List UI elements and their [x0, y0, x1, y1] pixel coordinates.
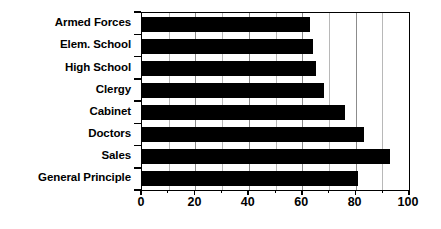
bar [142, 149, 390, 164]
category-label: Armed Forces [0, 12, 136, 34]
plot-area [141, 12, 410, 191]
category-label: Elem. School [0, 34, 136, 56]
category-tick [134, 34, 141, 36]
bar [142, 171, 358, 186]
bar [142, 61, 316, 76]
bar-row [142, 79, 409, 101]
bar [142, 83, 324, 98]
category-label: Cabinet [0, 101, 136, 123]
value-tick-minor [167, 190, 168, 193]
value-axis-label: 60 [294, 196, 308, 209]
bar-row [142, 168, 409, 190]
bar [142, 39, 313, 54]
bar-row [142, 102, 409, 124]
category-axis: Armed Forces Elem. School High School Cl… [0, 12, 136, 189]
bar [142, 105, 345, 120]
category-tick [134, 11, 141, 13]
value-tick-minor [275, 190, 276, 193]
value-tick-minor [382, 190, 383, 193]
category-tick [134, 145, 141, 147]
category-tick [134, 100, 141, 102]
value-axis-label: 40 [241, 196, 255, 209]
category-axis-ticks [134, 12, 141, 190]
category-label: General Principle [0, 167, 136, 189]
bar [142, 127, 364, 142]
bars-layer [142, 13, 409, 190]
category-label: Clergy [0, 78, 136, 100]
value-axis-label: 0 [138, 196, 145, 209]
category-tick [134, 56, 141, 58]
value-axis-labels: 020406080100 [141, 196, 408, 216]
category-label: Sales [0, 145, 136, 167]
category-tick [134, 167, 141, 169]
value-tick-minor [328, 190, 329, 193]
category-label: High School [0, 56, 136, 78]
bar [142, 17, 310, 32]
value-tick-minor [221, 190, 222, 193]
bar-chart: Armed Forces Elem. School High School Cl… [0, 0, 441, 229]
bar-row [142, 57, 409, 79]
bar-row [142, 13, 409, 35]
category-tick [134, 123, 141, 125]
value-axis-label: 20 [187, 196, 201, 209]
value-axis-label: 100 [398, 196, 419, 209]
bar-row [142, 146, 409, 168]
bar-row [142, 35, 409, 57]
category-label: Doctors [0, 123, 136, 145]
value-axis-label: 80 [348, 196, 362, 209]
category-tick [134, 78, 141, 80]
bar-row [142, 124, 409, 146]
